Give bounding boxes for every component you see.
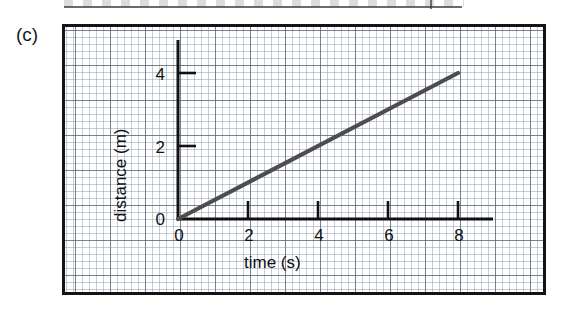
panel-label: (c) — [16, 24, 38, 46]
scan-artifact-rule — [64, 6, 462, 8]
x-tick-label-2: 2 — [241, 226, 257, 246]
scan-artifact-tick — [430, 0, 432, 9]
x-axis-title: time (s) — [244, 253, 301, 273]
plot-area — [65, 27, 543, 292]
data-series-line — [178, 73, 458, 219]
y-tick-label-4: 4 — [143, 65, 165, 85]
x-tick-label-0: 0 — [171, 226, 187, 246]
y-tick-label-0: 0 — [143, 210, 165, 230]
y-axis-title: distance (m) — [111, 128, 131, 222]
x-tick-label-6: 6 — [381, 226, 397, 246]
x-tick-label-4: 4 — [311, 226, 327, 246]
x-tick-label-8: 8 — [451, 226, 467, 246]
graph-frame: 4 2 0 0 2 4 6 8 distance (m) time (s) — [62, 24, 546, 295]
y-tick-label-2: 2 — [143, 138, 165, 158]
